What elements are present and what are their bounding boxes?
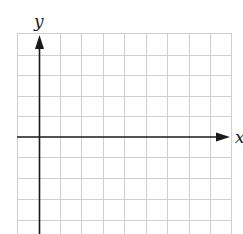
y-axis-arrow-icon: [35, 35, 44, 49]
y-axis-label: y: [33, 11, 44, 31]
coordinate-grid: y x: [0, 0, 243, 234]
x-axis-label: x: [235, 127, 243, 147]
x-axis: [17, 133, 230, 142]
x-axis-arrow-icon: [216, 133, 230, 142]
y-axis: [35, 35, 44, 234]
grid-lines: [17, 33, 232, 234]
